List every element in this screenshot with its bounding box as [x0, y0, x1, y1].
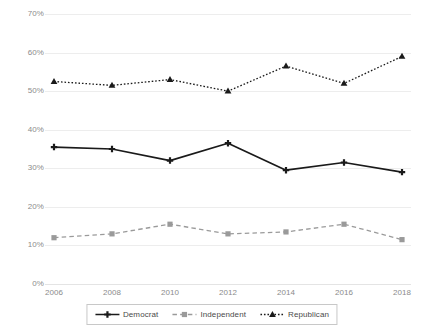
series-democrat [51, 140, 405, 175]
legend-label: Independent [200, 310, 246, 319]
plot-area [45, 14, 411, 284]
data-point-marker [109, 146, 115, 152]
data-point-marker [283, 62, 290, 68]
data-point-marker [399, 53, 406, 59]
data-point-marker [399, 237, 404, 242]
legend-item-republican[interactable]: Republican [259, 310, 329, 319]
data-point-marker [51, 235, 56, 240]
legend-swatch-triangle-icon [259, 310, 285, 319]
data-point-marker [225, 140, 231, 146]
y-axis-tick-label: 20% [10, 203, 44, 211]
legend-item-democrat[interactable]: Democrat [94, 310, 158, 319]
series-line [54, 143, 402, 172]
data-point-marker [167, 76, 174, 82]
x-axis-tick-label: 2006 [45, 288, 63, 298]
x-axis-tick-label: 2014 [277, 288, 295, 298]
chart-legend[interactable]: DemocratIndependentRepublican [86, 304, 337, 325]
x-axis-tick-label: 2010 [161, 288, 179, 298]
x-axis-tick-label: 2008 [103, 288, 121, 298]
series-line [54, 56, 402, 91]
data-point-marker [51, 144, 57, 150]
gridline [45, 284, 411, 285]
x-axis: 2006200820102012201420162018 [45, 288, 411, 302]
data-point-marker [51, 78, 58, 84]
x-axis-tick-label: 2018 [393, 288, 411, 298]
line-chart: 70%60%50%40%30%20%10%0% 2006200820102012… [0, 0, 423, 330]
y-axis-tick-label: 40% [10, 126, 44, 134]
data-point-marker [283, 167, 289, 173]
y-axis-tick-label: 30% [10, 164, 44, 172]
legend-label: Republican [288, 310, 329, 319]
data-point-marker [341, 159, 347, 165]
data-point-marker [399, 169, 405, 175]
data-point-marker [341, 222, 346, 227]
y-axis-tick-label: 0% [10, 280, 44, 288]
data-point-marker [167, 222, 172, 227]
data-point-marker [167, 157, 173, 163]
y-axis-tick-label: 10% [10, 241, 44, 249]
y-axis-tick-label: 70% [10, 10, 44, 18]
series-independent [51, 222, 404, 243]
x-axis-tick-label: 2012 [219, 288, 237, 298]
legend-swatch-square-icon [171, 310, 197, 319]
legend-label: Democrat [123, 310, 158, 319]
legend-swatch-plus-icon [94, 310, 120, 319]
data-point-marker [109, 231, 114, 236]
x-axis-tick-label: 2016 [335, 288, 353, 298]
series-layer [45, 14, 411, 284]
data-point-marker [283, 229, 288, 234]
y-axis-tick-label: 60% [10, 49, 44, 57]
legend-item-independent[interactable]: Independent [171, 310, 246, 319]
y-axis-tick-label: 50% [10, 87, 44, 95]
data-point-marker [225, 231, 230, 236]
series-republican [51, 53, 406, 94]
data-point-marker [225, 88, 232, 94]
